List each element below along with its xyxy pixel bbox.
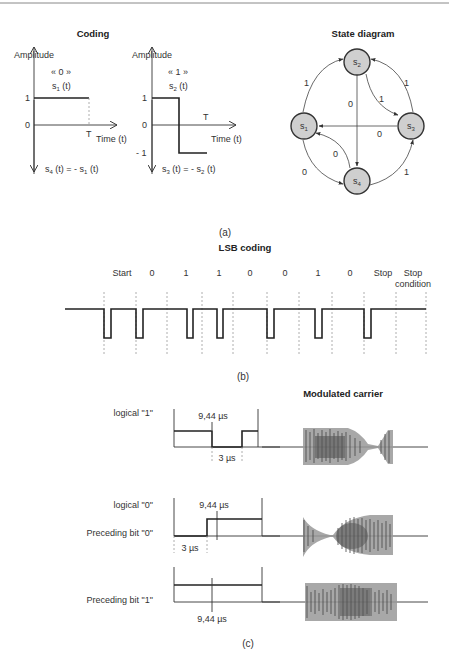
row-preceding-bit-one: Preceding bit "1" 9,44 µs xyxy=(87,567,280,624)
coding-panel: Coding Amplitude « 0 » s1 (t) 1 0 T Time… xyxy=(14,28,242,175)
symbol-one: « 1 » xyxy=(168,67,188,77)
bit-label: 0 xyxy=(347,268,352,278)
state-diagram-title: State diagram xyxy=(332,28,395,39)
modulated-carrier-title: Modulated carrier xyxy=(303,388,383,399)
bit-boundaries xyxy=(104,292,426,355)
caption-c: (c) xyxy=(242,638,254,649)
y-tick-minus-one: - 1 xyxy=(136,148,147,158)
edge-label: 1 xyxy=(379,94,384,104)
edge-s1-s4 xyxy=(303,140,343,184)
preceding-bit-one-label: Preceding bit "1" xyxy=(87,595,153,605)
edge-label: 1 xyxy=(404,167,409,177)
figure-canvas: Coding Amplitude « 0 » s1 (t) 1 0 T Time… xyxy=(0,0,449,658)
caption-a: (a) xyxy=(219,227,231,238)
y-tick-one: 1 xyxy=(25,93,30,103)
s2-signal xyxy=(152,98,207,153)
bit-label: 0 xyxy=(282,268,287,278)
time-axis-label: Time (t) xyxy=(96,134,127,144)
carrier-waveform-2 xyxy=(262,515,428,557)
edge-label: 1 xyxy=(304,78,309,88)
state-diagram: State diagram 1 1 1 0 0 0 0 1 s2 s1 s3 xyxy=(291,28,424,194)
bit-label: 1 xyxy=(216,268,221,278)
signal-s2-label: s2 (t) xyxy=(169,81,188,92)
pulse-width-label: 3 µs xyxy=(218,453,236,463)
edge-label: 0 xyxy=(302,167,307,177)
edge-label: 0 xyxy=(348,99,353,109)
coding-title: Coding xyxy=(77,28,110,39)
row-logical-zero: logical "0" Preceding bit "0" 9,44 µs 3 … xyxy=(87,498,280,553)
t-label: T xyxy=(203,112,209,122)
carrier-waveform-3 xyxy=(262,583,428,621)
row-logical-one: logical "1" 9,44 µs 3 µs xyxy=(114,408,280,463)
time-axis-label: Time (t) xyxy=(211,134,242,144)
state-node-s1: s1 xyxy=(291,113,317,139)
preceding-bit-zero-label: Preceding bit "0" xyxy=(87,528,153,538)
edge-label: 0 xyxy=(377,129,382,139)
s3-equation: s3 (t) = - s2 (t) xyxy=(162,164,215,175)
lsb-coding-panel: LSB coding Start 0 1 1 0 0 1 0 Stop Stop… xyxy=(65,242,431,355)
stop-condition-label: Stop xyxy=(404,268,423,278)
signal-s1-label: s1 (t) xyxy=(52,81,71,92)
coding-plot-s2: Amplitude « 1 » s2 (t) 1 0 - 1 T Time (t… xyxy=(132,47,242,175)
bit-label: Stop xyxy=(374,268,393,278)
period-label: 9,44 µs xyxy=(199,500,229,510)
period-label: 9,44 µs xyxy=(198,411,228,421)
s4-equation: s4 (t) = - s1 (t) xyxy=(45,164,98,175)
t-label: T xyxy=(86,129,92,139)
logical-one-waveform xyxy=(174,431,258,447)
state-node-s2: s2 xyxy=(344,49,370,75)
bit-label: Start xyxy=(112,268,132,278)
y-tick-one: 1 xyxy=(142,93,147,103)
edge-label: 0 xyxy=(333,149,338,159)
bit-label: 1 xyxy=(315,268,320,278)
logical-one-label: logical "1" xyxy=(114,408,153,418)
bit-label: 0 xyxy=(149,268,154,278)
bit-label: 0 xyxy=(247,268,252,278)
lsb-waveform xyxy=(65,309,426,338)
period-label: 9,44 µs xyxy=(197,614,227,624)
state-node-s3: s3 xyxy=(398,113,424,139)
carrier-waveform-1 xyxy=(262,428,428,465)
logical-zero-label: logical "0" xyxy=(114,500,153,510)
stop-condition-label: condition xyxy=(395,279,431,289)
symbol-zero: « 0 » xyxy=(51,67,71,77)
y-tick-zero: 0 xyxy=(25,120,30,130)
edge-label: 1 xyxy=(404,78,409,88)
modulation-panel: Modulated carrier logical "1" 9,44 µs 3 … xyxy=(87,388,428,624)
logical-zero-waveform xyxy=(174,519,262,536)
edge-s4-s3 xyxy=(370,140,413,185)
y-tick-zero: 0 xyxy=(142,120,147,130)
lsb-title: LSB coding xyxy=(219,242,272,253)
caption-b: (b) xyxy=(237,371,249,382)
state-node-s4: s4 xyxy=(344,168,370,194)
coding-plot-s1: Amplitude « 0 » s1 (t) 1 0 T Time (t) s4… xyxy=(14,47,127,175)
pulse-width-label: 3 µs xyxy=(181,543,199,553)
bit-label: 1 xyxy=(183,268,188,278)
